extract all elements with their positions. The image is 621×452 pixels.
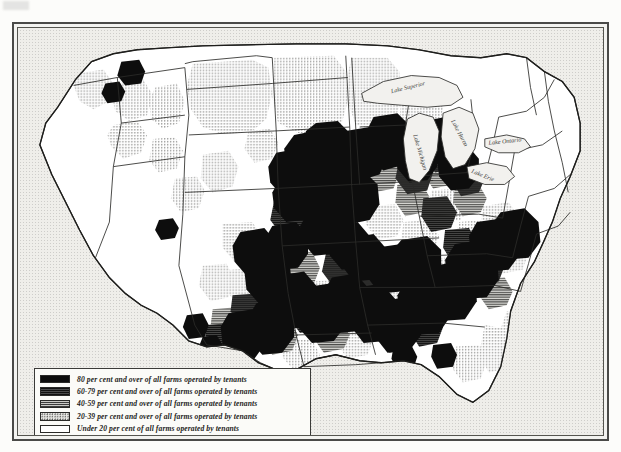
legend-swatch-80-icon — [40, 375, 70, 384]
legend-row-60: 60-79 per cent and over of all farms ope… — [40, 385, 305, 397]
legend-swatch-20-icon — [40, 412, 70, 421]
legend-label-80: 80 per cent and over of all farms operat… — [77, 375, 247, 384]
map-page: Lake Superior Lake Michigan Lake Huron L… — [0, 0, 621, 452]
legend-row-under-20: Under 20 per cent of all farms operated … — [40, 423, 305, 435]
map-frame-inner: Lake Superior Lake Michigan Lake Huron L… — [17, 27, 604, 436]
legend-label-20: 20-39 per cent and over of all farms ope… — [77, 412, 257, 421]
legend-swatch-60-icon — [40, 387, 70, 396]
map-frame-outer: Lake Superior Lake Michigan Lake Huron L… — [12, 22, 609, 441]
legend-label-under-20: Under 20 per cent of all farms operated … — [77, 424, 239, 433]
legend-label-60: 60-79 per cent and over of all farms ope… — [77, 387, 257, 396]
legend-box: 80 per cent and over of all farms operat… — [34, 368, 311, 436]
legend-swatch-under-20-icon — [40, 425, 70, 434]
legend-row-40: 40-59 per cent and over of all farms ope… — [40, 398, 305, 410]
legend-swatch-40-icon — [40, 400, 70, 409]
page-corner-smudge — [3, 1, 29, 10]
legend-row-20: 20-39 per cent and over of all farms ope… — [40, 410, 305, 422]
legend-label-40: 40-59 per cent and over of all farms ope… — [77, 399, 257, 408]
legend-row-80: 80 per cent and over of all farms operat… — [40, 373, 305, 385]
